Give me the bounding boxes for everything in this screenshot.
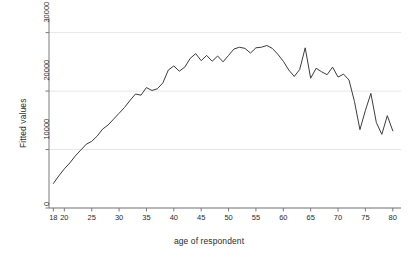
x-tick-label: 70 (334, 213, 342, 222)
x-tick-label: 45 (197, 213, 205, 222)
plot-panel-background (49, 18, 401, 208)
line-chart-plot (0, 0, 418, 264)
x-tick-label: 18 (49, 213, 57, 222)
x-tick-label: 30 (115, 213, 123, 222)
x-tick-label: 65 (307, 213, 315, 222)
y-tick-label: 10000 (42, 118, 51, 139)
x-tick-label: 20 (60, 213, 68, 222)
x-tick-label: 55 (252, 213, 260, 222)
x-tick-label: 50 (224, 213, 232, 222)
x-tick-label: 25 (88, 213, 96, 222)
x-tick-label: 35 (142, 213, 150, 222)
x-axis-title: age of respondent (0, 236, 418, 246)
x-axis-ticks (53, 208, 392, 212)
x-tick-label: 80 (389, 213, 397, 222)
x-tick-label: 75 (361, 213, 369, 222)
y-tick-label: 0 (42, 202, 51, 206)
x-tick-label: 40 (170, 213, 178, 222)
y-tick-label: 20000 (42, 60, 51, 81)
x-tick-label: 60 (279, 213, 287, 222)
chart-figure: 1820253035404550556065707580 01000020000… (0, 0, 418, 264)
y-axis-title: Fitted values (18, 99, 28, 149)
y-tick-label: 30000 (42, 1, 51, 22)
